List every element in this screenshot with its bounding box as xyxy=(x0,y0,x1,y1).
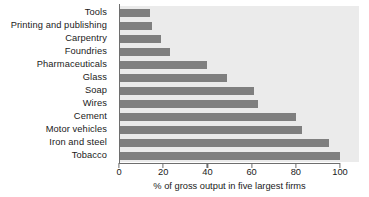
category-axis-labels: Tools Printing and publishing Carpentry … xyxy=(0,6,112,162)
y-axis-line xyxy=(119,4,120,164)
category-label: Carpentry xyxy=(0,32,112,45)
category-label: Glass xyxy=(0,71,112,84)
x-tick-label: 80 xyxy=(291,168,301,177)
category-label: Wires xyxy=(0,97,112,110)
bar-row xyxy=(119,110,359,123)
x-axis-title: % of gross output in five largest firms xyxy=(119,182,340,191)
category-label: Motor vehicles xyxy=(0,123,112,136)
plot-area xyxy=(119,6,359,162)
x-axis-ticks: 020406080100 xyxy=(119,163,340,169)
bar-pharmaceuticals xyxy=(119,61,207,69)
bar-row xyxy=(119,123,359,136)
x-tick-label: 0 xyxy=(116,168,121,177)
category-label: Tobacco xyxy=(0,149,112,162)
bar-motor-vehicles xyxy=(119,126,302,134)
bar-row xyxy=(119,149,359,162)
category-label: Soap xyxy=(0,84,112,97)
x-tick-label: 60 xyxy=(246,168,256,177)
bar-row xyxy=(119,6,359,19)
bar-row xyxy=(119,97,359,110)
bar-iron-and-steel xyxy=(119,139,329,147)
category-label: Foundries xyxy=(0,45,112,58)
bar-foundries xyxy=(119,48,170,56)
bar-cement xyxy=(119,113,296,121)
category-label: Printing and publishing xyxy=(0,19,112,32)
bar-soap xyxy=(119,87,254,95)
bar-row xyxy=(119,71,359,84)
bar-row xyxy=(119,58,359,71)
bar-row xyxy=(119,32,359,45)
bar-wires xyxy=(119,100,258,108)
category-label: Pharmaceuticals xyxy=(0,58,112,71)
bar-tobacco xyxy=(119,152,340,160)
x-tick-label: 20 xyxy=(158,168,168,177)
x-tick-label: 40 xyxy=(202,168,212,177)
bar-row xyxy=(119,136,359,149)
bar-row xyxy=(119,19,359,32)
category-label: Cement xyxy=(0,110,112,123)
bar-tools xyxy=(119,9,150,17)
category-label: Iron and steel xyxy=(0,136,112,149)
bar-chart: Tools Printing and publishing Carpentry … xyxy=(0,0,369,197)
bar-printing-and-publishing xyxy=(119,22,152,30)
bar-carpentry xyxy=(119,35,161,43)
bar-series xyxy=(119,6,359,162)
bar-row xyxy=(119,45,359,58)
category-label: Tools xyxy=(0,6,112,19)
bar-row xyxy=(119,84,359,97)
bar-glass xyxy=(119,74,227,82)
x-tick-label: 100 xyxy=(332,168,348,177)
